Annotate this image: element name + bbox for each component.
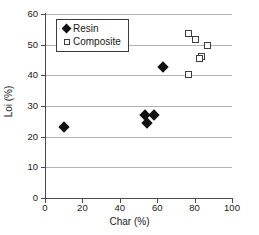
y-tick-label: 50	[4, 40, 38, 50]
open-square-icon	[61, 39, 72, 45]
data-point-resin-3	[149, 110, 160, 121]
scatter-chart: 0102030405060 020406080100 Char (%) Loi …	[0, 0, 259, 235]
y-tick-label-text: 10	[8, 162, 38, 172]
data-point-composite-3	[198, 53, 205, 60]
data-point-resin-2	[141, 118, 152, 129]
data-point-resin-4	[157, 61, 168, 72]
x-tick-label: 20	[67, 203, 97, 213]
gridline	[45, 106, 232, 107]
y-tick-label-text: 0	[8, 193, 38, 203]
y-tick-label-text: 50	[8, 40, 38, 50]
chart-legend: Resin Composite	[56, 19, 129, 52]
data-point-composite-5	[185, 71, 192, 78]
filled-diamond-icon	[61, 25, 72, 32]
y-tick-label: 0	[4, 193, 38, 203]
data-point-resin-0	[58, 121, 69, 132]
x-tick-label: 40	[105, 203, 135, 213]
gridline	[45, 75, 232, 76]
x-tick-label: 80	[180, 203, 210, 213]
y-tick	[41, 75, 45, 76]
gridline	[45, 137, 232, 138]
gridline	[45, 14, 232, 15]
y-tick	[41, 14, 45, 15]
legend-label-composite: Composite	[72, 36, 121, 47]
y-tick-label: 60	[4, 9, 38, 19]
y-tick	[41, 45, 45, 46]
legend-label-resin: Resin	[72, 23, 99, 34]
y-axis-title: Loi (%)	[3, 62, 14, 142]
x-tick-label: 60	[142, 203, 172, 213]
y-tick	[41, 167, 45, 168]
data-point-resin-1	[139, 110, 150, 121]
y-tick-label: 10	[4, 162, 38, 172]
y-axis-line	[45, 13, 46, 199]
data-point-composite-0	[185, 30, 192, 37]
y-tick	[41, 106, 45, 107]
x-axis-line	[45, 198, 233, 199]
legend-item-resin: Resin	[61, 22, 121, 35]
x-tick-label: 100	[217, 203, 247, 213]
y-tick-label-text: 60	[8, 9, 38, 19]
gridline	[45, 167, 232, 168]
y-tick	[41, 137, 45, 138]
legend-item-composite: Composite	[61, 35, 121, 48]
data-point-composite-4	[196, 55, 203, 62]
x-axis-title: Char (%)	[0, 216, 259, 227]
data-point-composite-1	[192, 36, 199, 43]
x-tick-label: 0	[30, 203, 60, 213]
